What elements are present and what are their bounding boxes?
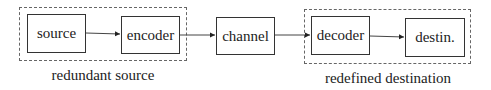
arrow-source-to-encoder — [86, 33, 120, 34]
node-encoder: encoder — [121, 16, 180, 54]
node-destination: destin. — [405, 18, 465, 57]
caption-redundant-source: redundant source — [52, 67, 155, 84]
caption-redefined-destination: redefined destination — [325, 70, 451, 87]
node-source-label: source — [37, 25, 76, 42]
node-channel-label: channel — [222, 28, 269, 45]
arrow-decoder-to-destination — [370, 36, 404, 37]
node-channel: channel — [216, 17, 275, 55]
node-decoder: decoder — [311, 16, 370, 55]
node-destination-label: destin. — [415, 29, 455, 46]
node-decoder-label: decoder — [317, 27, 364, 44]
node-source: source — [27, 14, 86, 53]
node-encoder-label: encoder — [127, 27, 174, 44]
